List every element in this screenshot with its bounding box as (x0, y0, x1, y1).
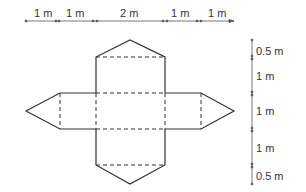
right-dim-label-2: 1 m (256, 70, 274, 82)
top-dim-label-2: 1 m (66, 7, 84, 19)
net-outline (26, 40, 234, 184)
top-dim-label-5: 1 m (208, 7, 226, 19)
top-dim-label-1: 1 m (34, 7, 52, 19)
right-dim-label-4: 1 m (256, 142, 274, 154)
right-dimension-line (251, 39, 253, 185)
top-dim-label-4: 1 m (171, 7, 189, 19)
right-dim-label-3: 1 m (256, 105, 274, 117)
top-dim-label-3: 2 m (120, 7, 138, 19)
right-dim-label-1: 0.5 m (256, 45, 284, 57)
prism-net-diagram: 1 m 1 m 2 m 1 m 1 m 0.5 m 1 m 1 m 1 m 0.… (0, 0, 306, 192)
right-dim-label-5: 0.5 m (256, 170, 284, 182)
fold-lines (60, 57, 201, 165)
top-dimension-line (25, 20, 234, 23)
